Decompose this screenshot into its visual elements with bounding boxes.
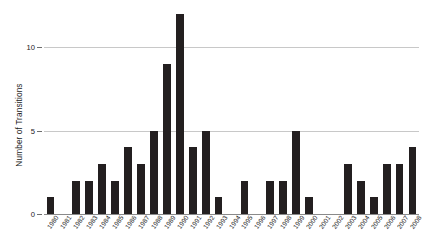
x-axis-tick-label: 1981 xyxy=(59,214,73,230)
plot-area: 0510 xyxy=(44,4,419,214)
y-axis-tick xyxy=(37,214,42,215)
bar-slot xyxy=(241,4,249,214)
bar-slot xyxy=(163,4,171,214)
x-axis-tick-label: 1993 xyxy=(214,214,228,230)
x-axis-tick-label: 1984 xyxy=(98,214,112,230)
bar xyxy=(292,131,300,214)
bar xyxy=(189,147,197,214)
bar xyxy=(241,181,249,214)
x-axis-tick-label: 2005 xyxy=(369,214,383,230)
bar xyxy=(111,181,119,214)
bar-slot xyxy=(98,4,106,214)
bar-slot xyxy=(202,4,210,214)
bar-slot xyxy=(370,4,378,214)
x-axis-tick-label: 1994 xyxy=(227,214,241,230)
bar xyxy=(85,181,93,214)
bar-slot xyxy=(228,4,236,214)
bar-slot xyxy=(124,4,132,214)
bar xyxy=(266,181,274,214)
bar-slot xyxy=(344,4,352,214)
bar xyxy=(409,147,417,214)
bar xyxy=(72,181,80,214)
bar-slot xyxy=(137,4,145,214)
bar-slot xyxy=(318,4,326,214)
bar-slot xyxy=(279,4,287,214)
bar-slot xyxy=(266,4,274,214)
bar-slot xyxy=(111,4,119,214)
x-axis-tick-label: 1996 xyxy=(253,214,267,230)
x-axis-tick-label: 2008 xyxy=(408,214,422,230)
x-axis-tick-label: 2003 xyxy=(343,214,357,230)
x-axis-tick-label: 1982 xyxy=(72,214,86,230)
bar-slot xyxy=(72,4,80,214)
x-axis-labels: 1980198119821983198419851986198719881989… xyxy=(44,214,419,250)
bar xyxy=(163,64,171,214)
y-axis-tick xyxy=(37,131,42,132)
x-axis-tick-label: 2001 xyxy=(318,214,332,230)
bar-slot xyxy=(215,4,223,214)
x-axis-tick-label: 1998 xyxy=(279,214,293,230)
bar xyxy=(279,181,287,214)
bar-slot xyxy=(396,4,404,214)
y-axis-tick-label: 10 xyxy=(27,43,35,52)
x-axis-tick-label: 1986 xyxy=(124,214,138,230)
bar-slot xyxy=(150,4,158,214)
x-axis-tick-label: 2000 xyxy=(305,214,319,230)
x-axis-tick-label: 1997 xyxy=(266,214,280,230)
x-axis-tick-label: 1980 xyxy=(46,214,60,230)
x-axis-tick-label: 1999 xyxy=(292,214,306,230)
y-axis-tick-label: 0 xyxy=(31,210,35,219)
bar xyxy=(396,164,404,214)
y-axis-tick-label: 5 xyxy=(31,126,35,135)
bar-slot xyxy=(85,4,93,214)
bar-slot xyxy=(47,4,55,214)
x-axis-tick-label: 2004 xyxy=(356,214,370,230)
x-axis-tick-label: 1987 xyxy=(137,214,151,230)
bar-slot xyxy=(305,4,313,214)
bar xyxy=(370,197,378,214)
bar xyxy=(305,197,313,214)
bar-slot xyxy=(176,4,184,214)
bar xyxy=(215,197,223,214)
x-axis-tick-label: 1990 xyxy=(175,214,189,230)
bar-slot xyxy=(292,4,300,214)
y-axis-tick xyxy=(37,47,42,48)
bar-slot xyxy=(60,4,68,214)
x-axis-tick-label: 1992 xyxy=(201,214,215,230)
x-axis-tick-label: 1983 xyxy=(85,214,99,230)
bar xyxy=(176,14,184,214)
x-axis-tick-label: 2006 xyxy=(382,214,396,230)
bar xyxy=(98,164,106,214)
bar xyxy=(357,181,365,214)
bar-slot xyxy=(357,4,365,214)
x-axis-tick-label: 1985 xyxy=(111,214,125,230)
bar xyxy=(344,164,352,214)
bar-slot xyxy=(331,4,339,214)
bar xyxy=(383,164,391,214)
x-axis-tick-label: 1989 xyxy=(162,214,176,230)
x-axis-tick-label: 1988 xyxy=(149,214,163,230)
bar xyxy=(124,147,132,214)
bar xyxy=(150,131,158,214)
bar xyxy=(137,164,145,214)
x-axis-tick-label: 2007 xyxy=(395,214,409,230)
x-axis-tick-label: 1991 xyxy=(188,214,202,230)
bar-slot xyxy=(409,4,417,214)
bar-chart: Number of Transitions 0510 1980198119821… xyxy=(0,0,423,250)
x-axis-tick-label: 1995 xyxy=(240,214,254,230)
bar xyxy=(202,131,210,214)
bar-slot xyxy=(189,4,197,214)
bar xyxy=(47,197,55,214)
x-axis-tick-label: 2002 xyxy=(331,214,345,230)
bars xyxy=(44,4,419,214)
y-axis-title: Number of Transitions xyxy=(8,0,30,250)
bar-slot xyxy=(383,4,391,214)
bar-slot xyxy=(253,4,261,214)
